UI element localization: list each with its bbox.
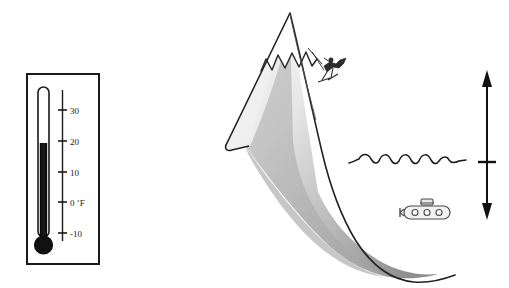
submarine-porthole-3 xyxy=(436,210,442,216)
thermometer: 30 20 10 0 ˚F -10 xyxy=(27,74,99,264)
depth-arrow-head-up xyxy=(482,70,492,87)
depth-arrow xyxy=(478,70,496,220)
thermometer-tick-label-10: 10 xyxy=(70,168,80,178)
depth-arrow-head-down xyxy=(482,203,492,220)
thermometer-bulb xyxy=(35,236,53,254)
water-surface xyxy=(349,155,466,164)
illustration-svg: 30 20 10 0 ˚F -10 xyxy=(0,0,509,288)
illustration-canvas: 30 20 10 0 ˚F -10 xyxy=(0,0,509,288)
thermometer-tick-label-20: 20 xyxy=(70,137,80,147)
thermometer-tick-label-0: 0 ˚F xyxy=(70,198,85,208)
climber-body xyxy=(324,60,344,72)
thermometer-tick-label-30: 30 xyxy=(70,106,80,116)
iceberg xyxy=(226,13,455,282)
submarine-conning-tower xyxy=(421,199,433,205)
submarine-porthole-1 xyxy=(412,210,418,216)
water-wave-line xyxy=(349,155,466,164)
thermometer-tick-label-minus-10: -10 xyxy=(70,229,82,239)
thermometer-mercury-column xyxy=(40,143,47,245)
climber-skis xyxy=(318,74,338,82)
submarine xyxy=(400,199,450,219)
submarine-porthole-2 xyxy=(424,210,430,216)
